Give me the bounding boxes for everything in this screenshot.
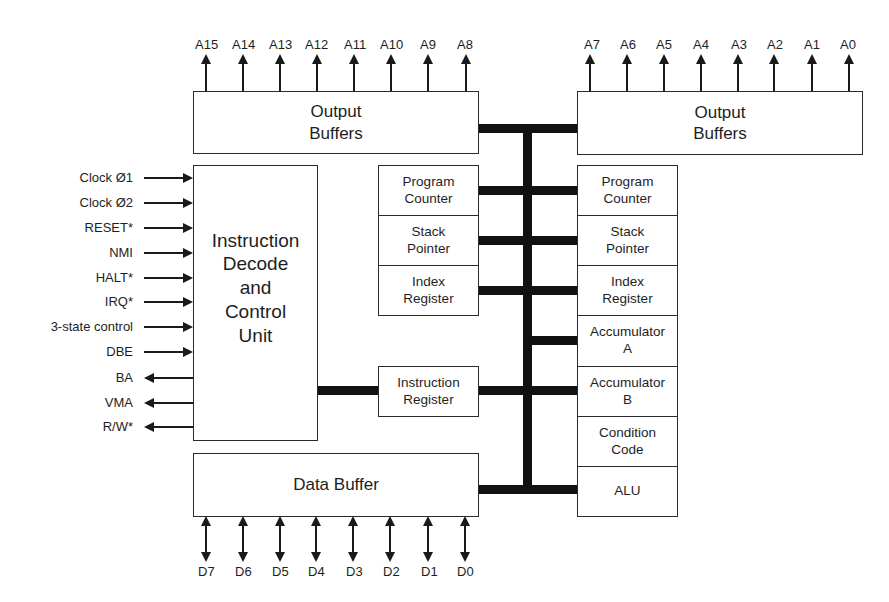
data-buffer-label: Data Buffer: [293, 474, 379, 495]
pin-label: A13: [269, 37, 292, 52]
register-label: Instruction Register: [397, 375, 459, 409]
register-label: Index Register: [403, 274, 453, 308]
output-buffers-high-label: Output Buffers: [309, 101, 363, 144]
signal-label: HALT*: [0, 270, 133, 285]
accumulator-b: Accumulator B: [577, 366, 678, 417]
index-register-high: Index Register: [378, 265, 479, 316]
register-label: Stack Pointer: [407, 224, 450, 258]
signal-label: R/W*: [0, 419, 133, 434]
stack-pointer-low: Stack Pointer: [577, 215, 678, 266]
signal-label: IRQ*: [0, 294, 133, 309]
register-label: Stack Pointer: [606, 224, 649, 258]
output-signal-arrows: [146, 378, 193, 427]
pin-label: A10: [380, 37, 403, 52]
stack-pointer-high: Stack Pointer: [378, 215, 479, 266]
pin-label: A3: [731, 37, 747, 52]
signal-label: RESET*: [0, 220, 133, 235]
register-label: Index Register: [602, 274, 652, 308]
pin-label: D7: [198, 564, 215, 579]
signal-label: Clock Ø1: [0, 170, 133, 185]
register-label: Condition Code: [599, 425, 656, 459]
program-counter-high: Program Counter: [378, 165, 479, 216]
data-pin-arrows: [206, 518, 465, 560]
pin-label: A9: [420, 37, 436, 52]
pin-label: A12: [305, 37, 328, 52]
signal-label: NMI: [0, 245, 133, 260]
signal-label: VMA: [0, 395, 133, 410]
accumulator-a: Accumulator A: [577, 315, 678, 367]
pin-label: A11: [344, 37, 366, 52]
output-buffers-low: Output Buffers: [577, 91, 863, 155]
program-counter-low: Program Counter: [577, 165, 678, 216]
register-label: Program Counter: [602, 174, 654, 208]
signal-label: BA: [0, 370, 133, 385]
register-label: Program Counter: [403, 174, 455, 208]
pin-label: D5: [272, 564, 289, 579]
pin-label: D2: [383, 564, 400, 579]
register-label: Accumulator B: [590, 375, 665, 409]
signal-label: DBE: [0, 344, 133, 359]
pin-label: A6: [620, 37, 636, 52]
pin-label: A8: [457, 37, 473, 52]
instruction-decode-control-unit: Instruction Decode and Control Unit: [193, 165, 318, 441]
address-low-arrows: [590, 56, 849, 91]
signal-label: 3-state control: [0, 319, 133, 334]
pin-label: A2: [767, 37, 783, 52]
pin-label: D4: [308, 564, 325, 579]
pin-label: A15: [195, 37, 218, 52]
signal-label: Clock Ø2: [0, 195, 133, 210]
pin-label: D6: [235, 564, 252, 579]
pin-label: D3: [346, 564, 363, 579]
data-buffer: Data Buffer: [193, 453, 479, 517]
output-buffers-low-label: Output Buffers: [693, 102, 747, 145]
pin-label: A5: [656, 37, 672, 52]
pin-label: A1: [804, 37, 820, 52]
output-buffers-high: Output Buffers: [193, 91, 479, 154]
register-label: ALU: [614, 483, 640, 500]
pin-label: D1: [421, 564, 438, 579]
alu: ALU: [577, 466, 678, 517]
address-high-arrows: [206, 56, 466, 91]
pin-label: A7: [584, 37, 600, 52]
register-label: Accumulator A: [590, 324, 665, 358]
pin-label: A14: [232, 37, 255, 52]
input-signal-arrows: [144, 178, 191, 352]
pin-label: A4: [693, 37, 709, 52]
index-register-low: Index Register: [577, 265, 678, 316]
condition-code: Condition Code: [577, 416, 678, 467]
pin-label: A0: [840, 37, 856, 52]
pin-label: D0: [457, 564, 474, 579]
control-unit-label: Instruction Decode and Control Unit: [212, 229, 300, 348]
instruction-register: Instruction Register: [378, 366, 479, 417]
